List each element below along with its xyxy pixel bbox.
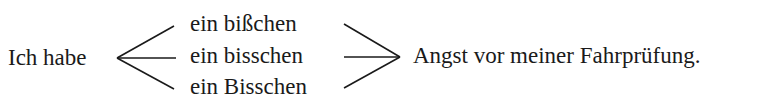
left-branch-bottom: [117, 58, 174, 89]
right-branch-top: [344, 24, 400, 57]
right-branch-bottom: [344, 57, 400, 88]
option-1: ein bißchen: [190, 12, 297, 35]
sentence-end: Angst vor meiner Fahrprüfung.: [413, 44, 700, 67]
sentence-start: Ich habe: [8, 46, 87, 69]
option-2: ein bisschen: [190, 44, 303, 67]
left-branch-top: [117, 26, 174, 58]
option-3: ein Bisschen: [190, 75, 307, 98]
